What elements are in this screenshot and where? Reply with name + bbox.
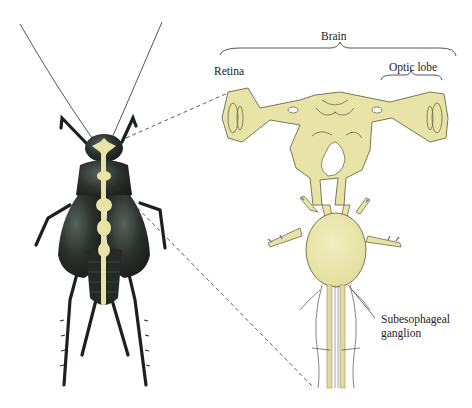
cricket-nervous-system-diagram: Brain Retina Optic lobe Subesophageal ga… xyxy=(0,0,472,408)
retina-label: Retina xyxy=(214,65,244,78)
subesophageal-label-line1: Subesophageal xyxy=(381,313,450,326)
optic-lobe-label: Optic lobe xyxy=(389,61,437,74)
ventral-nerve-cord xyxy=(300,285,370,388)
leg-spines xyxy=(60,320,150,366)
brain-label: Brain xyxy=(321,30,347,43)
antennae xyxy=(20,22,162,138)
subesophageal-label-line2: ganglion xyxy=(381,327,421,340)
subesophageal-leader xyxy=(348,285,375,318)
subesophageal-ganglion xyxy=(268,196,401,287)
